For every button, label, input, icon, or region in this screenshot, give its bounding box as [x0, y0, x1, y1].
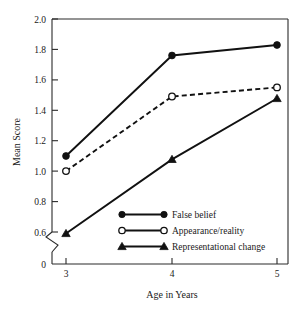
y-tick-label-0.8: 0.8: [34, 197, 46, 207]
y-tick-label-1.6: 1.6: [34, 75, 46, 85]
legend-marker-appearance-reality-left: [119, 227, 125, 233]
legend-item-representational-change: Representational change: [118, 242, 265, 252]
legend-marker-appearance-reality-right: [161, 227, 167, 233]
x-tick-label-5: 5: [275, 269, 280, 279]
axis-break-symbol: [46, 232, 58, 252]
y-tick-label-1.4: 1.4: [34, 106, 46, 116]
legend-label-representational-change: Representational change: [172, 242, 265, 252]
x-axis-ticks: [66, 258, 277, 264]
x-tick-label-3: 3: [64, 269, 69, 279]
y-axis-title: Mean Score: [11, 117, 22, 166]
legend-item-appearance-reality: Appearance/reality: [119, 226, 245, 236]
legend-label-false-belief: False belief: [172, 210, 217, 220]
y-tick-label-2.0: 2.0: [34, 15, 46, 25]
data-point-appearance-reality-age3: [63, 168, 70, 175]
data-point-appearance-reality-age5: [274, 84, 281, 91]
legend-marker-false-belief-left: [119, 211, 125, 217]
series-line-false-belief: [66, 45, 277, 156]
chart-legend: False belief Appearance/reality Represen…: [118, 210, 265, 252]
data-point-representational-change-age5: [273, 94, 281, 101]
data-point-false-belief-age5: [274, 42, 281, 49]
y-axis-tick-labels: 2.0 1.8 1.6 1.4 1.2 1.0 0.8 0.6 0: [34, 15, 46, 270]
data-point-representational-change-age4: [168, 155, 176, 162]
y-axis-ticks: [52, 19, 58, 232]
chart-figure: 2.0 1.8 1.6 1.4 1.2 1.0 0.8 0.6 0 3 4 5 …: [0, 0, 304, 311]
legend-marker-false-belief-right: [161, 211, 167, 217]
x-tick-label-4: 4: [170, 269, 175, 279]
series-false-belief: [63, 42, 281, 160]
x-axis-title: Age in Years: [146, 289, 197, 300]
y-tick-label-1.2: 1.2: [34, 136, 46, 146]
data-point-appearance-reality-age4: [169, 93, 176, 100]
legend-label-appearance-reality: Appearance/reality: [172, 226, 245, 236]
y-tick-label-1.0: 1.0: [34, 167, 46, 177]
legend-item-false-belief: False belief: [119, 210, 217, 220]
y-tick-label-1.8: 1.8: [34, 45, 46, 55]
data-point-false-belief-age3: [63, 153, 70, 160]
x-axis-tick-labels: 3 4 5: [64, 269, 280, 279]
data-point-false-belief-age4: [169, 52, 176, 59]
y-tick-label-0.6: 0.6: [34, 228, 46, 238]
y-tick-label-0: 0: [41, 260, 46, 270]
